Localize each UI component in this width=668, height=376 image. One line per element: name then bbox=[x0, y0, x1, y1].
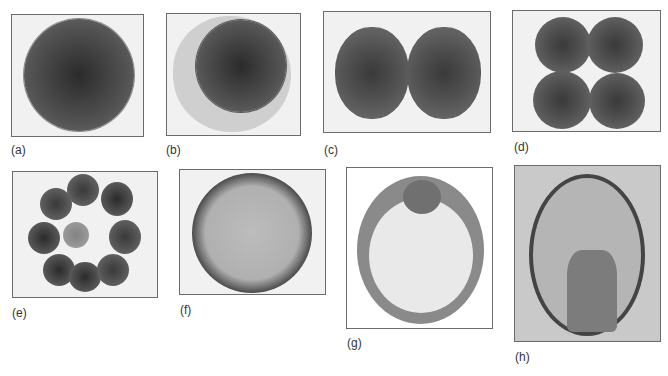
cell-7 bbox=[69, 262, 101, 292]
cell-9 bbox=[63, 222, 89, 248]
panel-e-label: (e) bbox=[12, 306, 27, 320]
archenteron bbox=[567, 250, 617, 332]
panel-f-image bbox=[179, 169, 326, 295]
blastula bbox=[192, 173, 312, 293]
panel-a-image bbox=[11, 14, 144, 137]
panel-e-image bbox=[12, 171, 158, 298]
cell-4 bbox=[28, 222, 60, 254]
panel-d-image bbox=[512, 10, 661, 132]
egg-cell bbox=[196, 20, 286, 112]
panel-h-label: (h) bbox=[515, 350, 530, 364]
cell-2 bbox=[40, 188, 72, 220]
panel-b-image bbox=[166, 13, 301, 136]
cell-5 bbox=[109, 220, 141, 254]
cell-3 bbox=[101, 182, 133, 216]
blastomere-left bbox=[335, 27, 409, 119]
panel-b-label: (b) bbox=[166, 143, 181, 157]
invagination bbox=[403, 180, 441, 214]
blastomere-4 bbox=[589, 73, 645, 129]
blastomere-2 bbox=[587, 17, 643, 73]
panel-g-image bbox=[346, 167, 493, 329]
blastomere-1 bbox=[535, 17, 591, 73]
panel-g-label: (g) bbox=[347, 336, 362, 350]
panel-f-label: (f) bbox=[180, 303, 191, 317]
blastocoel bbox=[369, 198, 473, 313]
panel-h-image bbox=[514, 165, 661, 342]
panel-a-label: (a) bbox=[11, 143, 26, 157]
zygote-cell bbox=[24, 19, 134, 131]
cell-8 bbox=[97, 254, 129, 286]
panel-d-label: (d) bbox=[514, 140, 529, 154]
blastomere-3 bbox=[533, 71, 591, 129]
blastomere-right bbox=[407, 27, 481, 119]
panel-c-label: (c) bbox=[324, 143, 338, 157]
panel-c-image bbox=[323, 11, 491, 133]
